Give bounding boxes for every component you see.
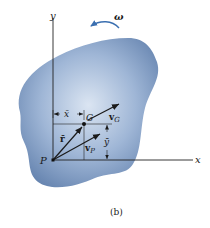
r-bar-label: r̄ <box>60 134 65 144</box>
omega-label: ω <box>114 11 124 22</box>
ybar-label: ȳ <box>103 137 110 147</box>
xbar-label: x̄ <box>64 109 69 119</box>
rigid-body-diagram: y x ω x̄ ȳ r̄ vP vG G P (b) <box>0 0 210 228</box>
angular-velocity-arrow-icon <box>91 22 119 28</box>
figure-caption: (b) <box>110 207 123 217</box>
x-axis-label: x <box>195 154 201 165</box>
point-g-label: G <box>86 113 93 123</box>
y-axis-label: y <box>49 10 56 21</box>
point-p <box>52 159 55 162</box>
point-p-label: P <box>39 155 47 166</box>
